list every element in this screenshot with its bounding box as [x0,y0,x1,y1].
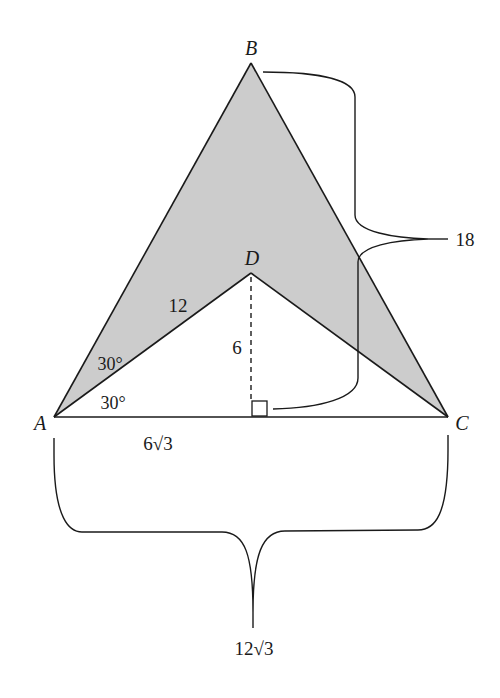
label-angle-bad: 30° [97,354,122,374]
label-half-base: 6√3 [143,433,172,454]
geometry-diagram: B D A C 12 6 30° 30° 6√3 12√3 18 [0,0,500,698]
point-label-a: A [32,412,47,434]
label-angle-dac: 30° [100,393,125,413]
label-height-d: 6 [232,337,242,358]
right-angle-marker [252,401,267,416]
point-label-c: C [455,412,469,434]
point-label-b: B [245,37,257,59]
brace-base-12sqrt3 [54,435,448,612]
label-height-b: 18 [456,229,475,250]
label-side-ad: 12 [169,295,188,316]
point-label-d: D [244,247,260,269]
label-full-base: 12√3 [235,638,274,659]
